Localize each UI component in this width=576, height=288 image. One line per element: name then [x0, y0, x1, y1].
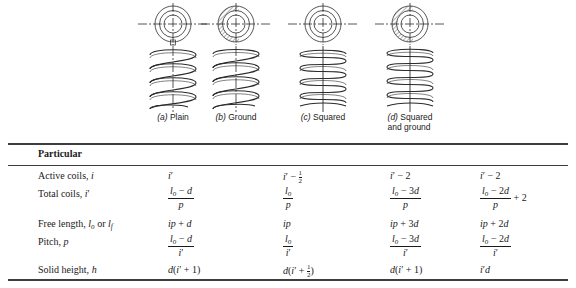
column-header-particular: Particular — [38, 148, 82, 159]
side-view-squared-ground-icon — [379, 46, 441, 112]
cell-total-coils-squared: lo − 3dp — [390, 186, 421, 211]
top-view-ground-icon — [199, 2, 273, 46]
row-label-total-coils: Total coils, i′ — [38, 188, 90, 199]
cell-active-coils-ground: i′ − 12 — [283, 170, 302, 186]
spring-diagram-squared-and-ground: (d) Squared and ground — [355, 0, 465, 140]
caption-squared-and-ground: (d) Squared and ground — [388, 112, 433, 132]
cell-pitch-ground: loi′ — [283, 234, 293, 259]
cell-pitch-squared-ground: lo − 2di′ — [480, 234, 511, 259]
cell-free-length-ground: ip — [283, 218, 291, 229]
table-row-total-coils: Total coils, i′ lo − dp lop lo − 3dp lo … — [0, 186, 576, 212]
cell-free-length-plain: ip + d — [168, 218, 191, 229]
caption-name-squared-2: Squared — [400, 112, 432, 122]
cell-active-coils-squared-ground: i′ − 2 — [480, 170, 501, 181]
cell-total-coils-squared-ground: lo − 2dp + 2 — [480, 186, 527, 211]
row-label-pitch: Pitch, p — [38, 236, 69, 247]
side-view-squared-icon — [292, 46, 354, 112]
table-row-solid-height: Solid height, h d(i′ + 1) d(i′ + 12) d(i… — [0, 264, 576, 280]
side-view-ground-icon — [205, 46, 267, 112]
top-view-squared-icon — [286, 2, 360, 46]
cell-total-coils-plain: lo − dp — [168, 186, 194, 211]
cell-active-coils-plain: i′ — [168, 170, 173, 181]
caption-name-squared: Squared — [313, 112, 345, 122]
caption-label-b: (b) — [215, 112, 225, 122]
caption-label-d: (d) — [388, 112, 398, 122]
cell-free-length-squared: ip + 3d — [390, 218, 418, 229]
row-label-active-coils: Active coils, i — [38, 170, 94, 181]
table-rule-mid — [8, 165, 568, 166]
spring-end-types-figure: (a) Plain — [0, 0, 576, 140]
caption-label-a: (a) — [157, 112, 167, 122]
row-label-free-length: Free length, lo or lf — [38, 218, 113, 231]
cell-solid-height-squared: d(i′ + 1) — [390, 264, 422, 275]
cell-solid-height-plain: d(i′ + 1) — [168, 264, 200, 275]
table-row-pitch: Pitch, p lo − di′ loi′ lo − 3di′ lo − 2d… — [0, 234, 576, 260]
cell-solid-height-squared-ground: i′d — [480, 264, 490, 275]
row-label-solid-height: Solid height, h — [38, 264, 97, 275]
table-rule-top — [8, 143, 568, 145]
caption-name-and-ground: and ground — [388, 122, 431, 132]
top-view-squared-ground-icon — [373, 2, 447, 46]
table-row-active-coils: Active coils, i i′ i′ − 12 i′ − 2 i′ − 2 — [0, 170, 576, 186]
cell-active-coils-squared: i′ − 2 — [390, 170, 411, 181]
table-row-free-length: Free length, lo or lf ip + d ip ip + 3d … — [0, 218, 576, 234]
cell-pitch-squared: lo − 3di′ — [390, 234, 421, 259]
table-header-row: Particular — [0, 148, 576, 164]
caption-label-c: (c) — [301, 112, 311, 122]
spring-formula-table: Particular Active coils, i i′ i′ − 12 i′… — [0, 140, 576, 288]
caption-ground: (b) Ground — [215, 112, 256, 122]
caption-name-ground: Ground — [228, 112, 256, 122]
cell-solid-height-ground: d(i′ + 12) — [283, 264, 314, 280]
caption-squared: (c) Squared — [301, 112, 345, 122]
cell-pitch-plain: lo − di′ — [168, 234, 194, 259]
cell-total-coils-ground: lop — [283, 186, 293, 211]
cell-free-length-squared-ground: ip + 2d — [480, 218, 508, 229]
